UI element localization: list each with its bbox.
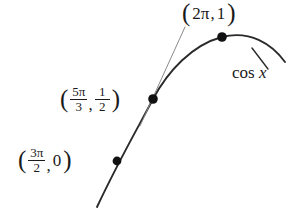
paren-close: ) xyxy=(112,89,120,109)
figure-canvas xyxy=(0,0,300,224)
point-marker-5pi-over-3 xyxy=(148,94,158,104)
paren-open: ( xyxy=(60,89,68,109)
function-variable: x xyxy=(259,63,267,82)
cosine-curve-path xyxy=(97,35,285,207)
paren-open: ( xyxy=(18,150,26,170)
point-label-5pi-over-3: ( 5π 3 , 1 2 ) xyxy=(60,85,120,114)
fraction-y: 1 2 xyxy=(95,85,110,114)
point-label-2pi: ( 2π , 1 ) xyxy=(182,3,236,23)
function-name: cos xyxy=(232,63,255,82)
paren-open: ( xyxy=(182,3,190,23)
point-marker-3pi-over-2 xyxy=(113,157,122,166)
fraction-numerator: 5π xyxy=(70,85,87,99)
fraction-numerator: 1 xyxy=(97,85,108,99)
curve-function-label: cos x xyxy=(232,64,266,81)
paren-close: ) xyxy=(227,3,235,23)
y-value: 1 xyxy=(217,5,226,22)
cosine-curve-figure: ( 2π , 1 ) ( 5π 3 , 1 2 ) ( 3π 2 , 0 ) xyxy=(0,0,300,224)
point-label-3pi-over-2: ( 3π 2 , 0 ) xyxy=(18,146,71,175)
fraction-numerator: 3π xyxy=(28,146,45,160)
fraction-denominator: 2 xyxy=(97,100,108,114)
fraction-denominator: 2 xyxy=(32,161,43,175)
y-value: 0 xyxy=(53,152,62,169)
fraction-denominator: 3 xyxy=(74,100,85,114)
paren-close: ) xyxy=(63,150,71,170)
fraction-x: 5π 3 xyxy=(70,85,87,114)
fraction-x: 3π 2 xyxy=(28,146,45,175)
comma: , xyxy=(210,5,214,23)
x-value: 2π xyxy=(192,5,209,22)
comma: , xyxy=(88,96,92,114)
point-marker-2pi xyxy=(217,32,227,42)
tangent-line-path xyxy=(140,27,185,126)
comma: , xyxy=(46,157,50,175)
